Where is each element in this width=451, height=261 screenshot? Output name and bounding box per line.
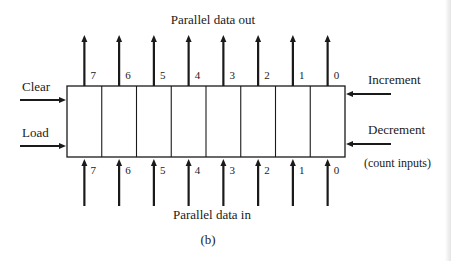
arrowhead-icon [116, 159, 122, 166]
output-bit-label: 7 [90, 69, 96, 81]
input-bit-label: 0 [334, 164, 340, 176]
figure-caption: (b) [200, 232, 215, 247]
page-edge-shadow [445, 0, 451, 261]
arrowhead-icon [116, 35, 122, 42]
output-arrow-bit-3 [220, 35, 226, 86]
arrowhead-icon [81, 159, 87, 166]
input-arrow-bit-0 [325, 159, 331, 206]
input-arrow-bit-3 [220, 159, 226, 206]
output-arrow-bit-5 [151, 35, 157, 86]
arrowhead-icon [151, 159, 157, 166]
input-bit-label: 6 [125, 164, 131, 176]
parallel-data-out-label: Parallel data out [171, 12, 256, 27]
parallel-input-arrows: 76543210 [81, 159, 339, 206]
input-arrow-bit-7 [81, 159, 87, 206]
parallel-data-in-label: Parallel data in [173, 207, 251, 222]
arrowhead-icon [186, 35, 192, 42]
control-input-load: Load [20, 125, 66, 149]
arrowhead-icon [290, 159, 296, 166]
control-input-clear: Clear [20, 79, 66, 103]
arrowhead-icon [325, 159, 331, 166]
arrowhead-icon [151, 35, 157, 42]
arrowhead-icon [346, 141, 353, 147]
input-bit-label: 1 [299, 164, 305, 176]
output-bit-label: 0 [334, 69, 340, 81]
control-label: Load [22, 125, 49, 140]
arrowhead-icon [255, 159, 261, 166]
output-bit-label: 5 [160, 69, 166, 81]
output-bit-label: 1 [299, 69, 305, 81]
output-bit-label: 4 [195, 69, 201, 81]
register-block [67, 86, 345, 157]
control-input-increment: Increment [346, 72, 421, 97]
input-bit-label: 3 [229, 164, 235, 176]
output-arrow-bit-4 [186, 35, 192, 86]
input-arrow-bit-4 [186, 159, 192, 206]
input-bit-label: 4 [195, 164, 201, 176]
register-counter-diagram: 76543210 76543210 ClearLoadIncrementDecr… [0, 0, 451, 261]
arrowhead-icon [346, 91, 353, 97]
arrowhead-icon [220, 159, 226, 166]
arrowhead-icon [325, 35, 331, 42]
output-bit-label: 6 [125, 69, 131, 81]
arrowhead-icon [220, 35, 226, 42]
arrowhead-icon [255, 35, 261, 42]
arrowhead-icon [59, 143, 66, 149]
output-arrow-bit-2 [255, 35, 261, 86]
output-arrow-bit-7 [81, 35, 87, 86]
output-bit-label: 2 [264, 69, 270, 81]
output-arrow-bit-6 [116, 35, 122, 86]
arrowhead-icon [81, 35, 87, 42]
arrowhead-icon [290, 35, 296, 42]
arrowhead-icon [186, 159, 192, 166]
output-bit-label: 3 [229, 69, 235, 81]
input-bit-label: 5 [160, 164, 166, 176]
control-label: Increment [368, 72, 421, 87]
count-inputs-note: (count inputs) [364, 156, 431, 170]
input-arrow-bit-2 [255, 159, 261, 206]
control-label: Clear [22, 79, 51, 94]
arrowhead-icon [59, 97, 66, 103]
output-arrow-bit-0 [325, 35, 331, 86]
parallel-output-arrows: 76543210 [81, 35, 339, 86]
control-input-decrement: Decrement [346, 122, 425, 147]
output-arrow-bit-1 [290, 35, 296, 86]
input-arrow-bit-1 [290, 159, 296, 206]
input-arrow-bit-6 [116, 159, 122, 206]
input-bit-label: 7 [90, 164, 96, 176]
input-bit-label: 2 [264, 164, 270, 176]
input-arrow-bit-5 [151, 159, 157, 206]
control-label: Decrement [368, 122, 425, 137]
